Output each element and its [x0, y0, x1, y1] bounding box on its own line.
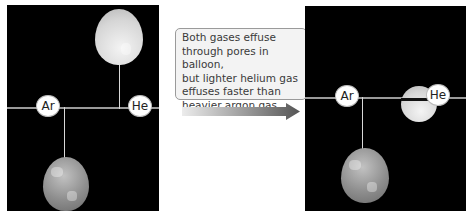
- balloon-highlight: [51, 167, 63, 177]
- helium-label: He: [128, 95, 152, 117]
- balloon-highlight: [349, 160, 361, 170]
- argon-label: Ar: [335, 85, 359, 107]
- caption-box: Both gases effuse through pores in ballo…: [175, 28, 307, 100]
- caption-line: Both gases effuse: [182, 31, 300, 45]
- helium-balloon: [95, 9, 143, 65]
- helium-label: He: [426, 84, 450, 106]
- helium-balloon-string: [119, 65, 120, 109]
- after-photo-panel: Ar He: [305, 6, 466, 211]
- argon-balloon: [43, 157, 89, 211]
- argon-balloon-string: [64, 107, 65, 159]
- argon-balloon: [341, 148, 389, 203]
- before-photo-panel: Ar He: [7, 5, 159, 211]
- argon-balloon-string: [362, 97, 363, 149]
- argon-label: Ar: [36, 95, 60, 117]
- balloon-highlight: [367, 182, 377, 192]
- balloon-highlight: [67, 191, 77, 201]
- caption-line: effuses faster than: [182, 85, 300, 99]
- right-arrow-icon: [182, 103, 300, 120]
- balloon-highlight: [121, 43, 131, 55]
- caption-line: through pores in balloon,: [182, 45, 300, 72]
- caption-line: but lighter helium gas: [182, 72, 300, 86]
